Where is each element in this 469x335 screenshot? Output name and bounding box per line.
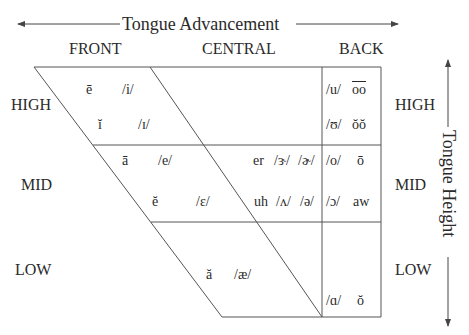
tongue-height-label: Tongue Height (440, 130, 458, 237)
vowel-o-ipa: /o/ (326, 154, 341, 168)
vowel-uh-ipa-unstressed: /ə/ (300, 195, 314, 209)
row-mid-left: MID (21, 177, 52, 193)
vowel-i-short-spelling: ĭ (98, 118, 102, 132)
vowel-oo-long-spelling: oo (352, 83, 366, 97)
vowel-er-ipa-stressed: /ɝ/ (274, 154, 290, 168)
tongue-advancement-label: Tongue Advancement (122, 15, 279, 33)
vowel-er-spelling: er (253, 154, 264, 168)
vowel-e-long-spelling: ē (86, 83, 92, 97)
column-central: CENTRAL (202, 41, 276, 57)
vowel-er-ipa-unstressed: /ɚ/ (298, 154, 315, 168)
row-high-left: HIGH (11, 97, 51, 113)
vowel-o-short-spelling: ŏ (357, 294, 364, 308)
vowel-o-long-spelling: ō (357, 154, 364, 168)
vowel-e-long-ipa: /i/ (122, 83, 134, 97)
vowel-uh-ipa-stressed: /ʌ/ (276, 195, 291, 209)
row-low-right: LOW (395, 262, 431, 278)
row-low-left: LOW (15, 262, 51, 278)
vowel-ae-ipa: /æ/ (234, 268, 251, 282)
vowel-a-short-spelling: ă (206, 268, 212, 282)
vowel-a-long-spelling: ā (122, 154, 128, 168)
vowel-open-o-ipa: /ɔ/ (326, 195, 340, 209)
vowel-aw-spelling: aw (353, 195, 369, 209)
vowel-uh-spelling: uh (254, 195, 268, 209)
row-mid-right: MID (395, 177, 426, 193)
column-front: FRONT (69, 41, 121, 57)
vowel-oo-short-spelling: ŏŏ (352, 118, 366, 132)
row-high-right: HIGH (395, 97, 435, 113)
vowel-i-short-ipa: /ɪ/ (138, 118, 150, 132)
vowel-upsilon-ipa: /ʊ/ (326, 118, 341, 132)
vowel-script-a-ipa: /ɑ/ (326, 294, 341, 308)
vowel-u-ipa: /u/ (326, 83, 341, 97)
vowel-e-short-ipa: /ɛ/ (196, 195, 210, 209)
column-back: BACK (339, 41, 383, 57)
vowel-e-short-spelling: ĕ (152, 195, 158, 209)
left-diagonal (34, 67, 222, 317)
vowel-a-long-ipa: /e/ (158, 154, 172, 168)
